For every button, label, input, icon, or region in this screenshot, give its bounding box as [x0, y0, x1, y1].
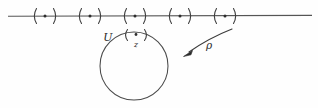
point-dot-icon	[134, 15, 137, 18]
horizontal-line	[8, 15, 312, 16]
rho-arrow-head-icon	[184, 51, 193, 57]
label-rho: ρ	[205, 39, 213, 51]
left-paren-icon	[126, 30, 128, 41]
figure-container: U z ρ	[0, 0, 318, 108]
point-dot-icon	[179, 15, 182, 18]
label-z: z	[133, 40, 138, 49]
point-dot-icon	[224, 15, 227, 18]
diagram-canvas: U z ρ	[0, 0, 318, 108]
point-dot-icon	[135, 33, 138, 36]
label-u: U	[103, 31, 113, 44]
neighborhood-symbol-z	[126, 30, 147, 41]
right-paren-icon	[145, 30, 147, 41]
point-dot-icon	[44, 15, 47, 18]
point-dot-icon	[89, 15, 92, 18]
